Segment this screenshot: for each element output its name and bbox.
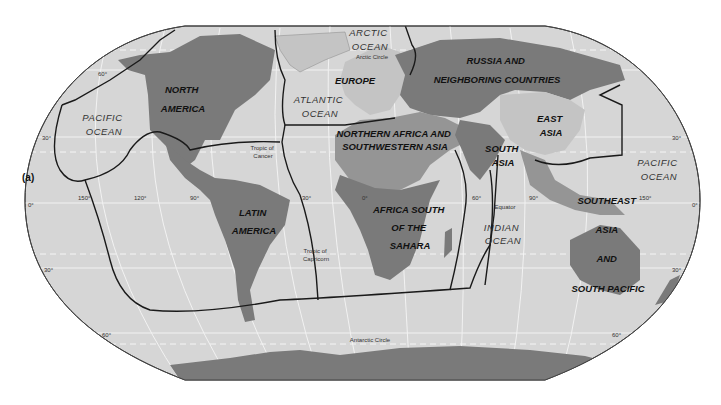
lon-label-90e: 90° xyxy=(529,195,539,201)
lat-label-0-left: 0° xyxy=(28,202,34,208)
label-europe: EUROPE xyxy=(335,75,376,86)
world-regions-map: NORTH AMERICA EUROPE RUSSIA AND NEIGHBOR… xyxy=(0,0,721,405)
lon-label-120w: 120° xyxy=(134,195,147,201)
lat-label-30n-left: 30° xyxy=(42,135,52,141)
lon-label-150e: 150° xyxy=(639,195,652,201)
lon-label-150w: 150° xyxy=(78,195,91,201)
lon-label-30w: 30° xyxy=(302,195,312,201)
lat-label-0-right: 0° xyxy=(692,202,698,208)
lon-label-0: 0° xyxy=(362,195,368,201)
lat-label-30s-left: 30° xyxy=(44,267,54,273)
label-equator: Equator xyxy=(494,204,515,210)
label-antarctic-circle: Antarctic Circle xyxy=(350,337,391,343)
lat-label-60n-left: 60° xyxy=(98,71,108,77)
label-arctic-circle: Arctic Circle xyxy=(356,54,389,60)
lat-label-30s-right: 30° xyxy=(672,267,682,273)
lat-label-60s-left: 60° xyxy=(102,332,112,338)
lat-label-30n-right: 30° xyxy=(672,135,682,141)
lat-label-60s-right: 60° xyxy=(612,332,622,338)
lon-label-90w: 90° xyxy=(190,195,200,201)
lon-label-60e: 60° xyxy=(472,195,482,201)
figure-caption: (a) xyxy=(22,172,34,183)
